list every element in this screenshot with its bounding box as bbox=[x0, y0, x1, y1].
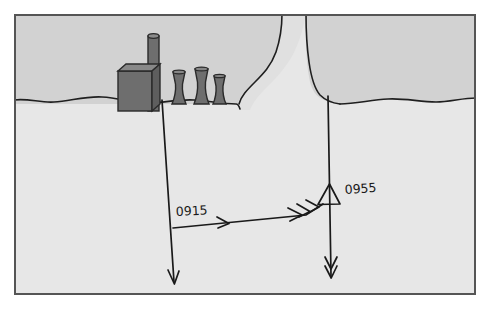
factory-building bbox=[118, 71, 152, 111]
chart-frame: 0915 0955 bbox=[14, 14, 476, 295]
cooling-tower-2-rim-icon bbox=[195, 67, 208, 71]
factory-building-side bbox=[152, 64, 160, 111]
time-label-0915: 0915 bbox=[175, 202, 208, 219]
screenshot-root: 0915 0955 bbox=[0, 0, 490, 309]
smokestack-rim-icon bbox=[148, 34, 159, 39]
time-label-0955: 0955 bbox=[344, 180, 377, 197]
cooling-tower-1-rim-icon bbox=[173, 70, 185, 74]
cooling-tower-3-rim-icon bbox=[214, 74, 225, 77]
chart-canvas: 0915 0955 bbox=[14, 14, 476, 295]
landmass-right bbox=[306, 14, 476, 104]
